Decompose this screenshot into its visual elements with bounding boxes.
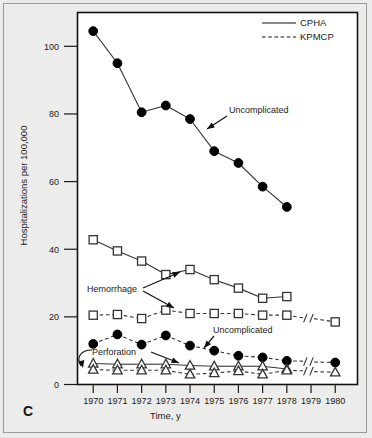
- marker-open-square: [283, 311, 291, 319]
- marker-filled-circle: [89, 27, 98, 36]
- annotation-perforation: Perforation: [92, 347, 136, 357]
- annotation-hemorrhage: Hemorrhage: [87, 284, 137, 294]
- x-axis-ticks: 1970197119721973197419751976197719781979…: [83, 385, 345, 407]
- x-tick-label: 1975: [204, 396, 224, 406]
- marker-filled-circle: [161, 101, 170, 110]
- y-tick-label: 20: [49, 312, 59, 322]
- marker-filled-circle: [331, 358, 340, 367]
- legend-label-kpmcp: KPMCP: [300, 31, 334, 42]
- x-tick-label: 1977: [253, 396, 273, 406]
- marker-open-square: [113, 247, 121, 255]
- x-tick-label: 1970: [83, 396, 103, 406]
- marker-filled-circle: [137, 108, 146, 117]
- y-tick-label: 0: [54, 380, 59, 390]
- legend-label-cpha: CPHA: [300, 17, 327, 28]
- marker-open-square: [210, 309, 218, 317]
- marker-open-square: [331, 318, 339, 326]
- x-tick-label: 1973: [156, 396, 176, 406]
- annotation-uncomplicated-kpmcp: Uncomplicated: [213, 325, 273, 335]
- marker-open-square: [259, 294, 267, 302]
- x-tick-label: 1972: [132, 396, 152, 406]
- marker-filled-circle: [161, 331, 170, 340]
- marker-open-square: [89, 236, 97, 244]
- y-axis-ticks: 020406080100: [44, 42, 78, 390]
- marker-open-square: [259, 311, 267, 319]
- x-tick-label: 1976: [228, 396, 248, 406]
- y-tick-label: 80: [49, 109, 59, 119]
- x-tick-label: 1980: [325, 396, 345, 406]
- marker-open-square: [186, 309, 194, 317]
- x-tick-label: 1979: [301, 396, 321, 406]
- marker-open-square: [210, 276, 218, 284]
- marker-open-square: [138, 314, 146, 322]
- marker-filled-circle: [258, 182, 267, 191]
- marker-open-square: [113, 310, 121, 318]
- marker-filled-circle: [210, 346, 219, 355]
- marker-filled-circle: [234, 351, 243, 360]
- x-tick-label: 1974: [180, 396, 200, 406]
- marker-filled-circle: [186, 115, 195, 124]
- chart-canvas: 020406080100 197019711972197319741975197…: [0, 0, 372, 438]
- annotation-uncomplicated-cpha: Uncomplicated: [229, 105, 289, 115]
- marker-filled-circle: [210, 147, 219, 156]
- marker-filled-circle: [137, 340, 146, 349]
- marker-open-square: [283, 292, 291, 300]
- marker-filled-circle: [186, 341, 195, 350]
- marker-filled-circle: [282, 203, 291, 212]
- marker-filled-circle: [113, 330, 122, 339]
- marker-open-square: [234, 309, 242, 317]
- marker-open-square: [186, 265, 194, 273]
- marker-filled-circle: [113, 59, 122, 68]
- y-tick-label: 60: [49, 177, 59, 187]
- marker-open-square: [89, 311, 97, 319]
- marker-open-square: [138, 257, 146, 265]
- x-tick-label: 1978: [277, 396, 297, 406]
- figure-panel-c: Hospitalizations per 100,000 Time, y C 0…: [0, 0, 372, 438]
- marker-filled-circle: [234, 159, 243, 168]
- x-tick-label: 1971: [107, 396, 127, 406]
- y-tick-label: 100: [44, 42, 59, 52]
- y-tick-label: 40: [49, 245, 59, 255]
- marker-open-square: [234, 284, 242, 292]
